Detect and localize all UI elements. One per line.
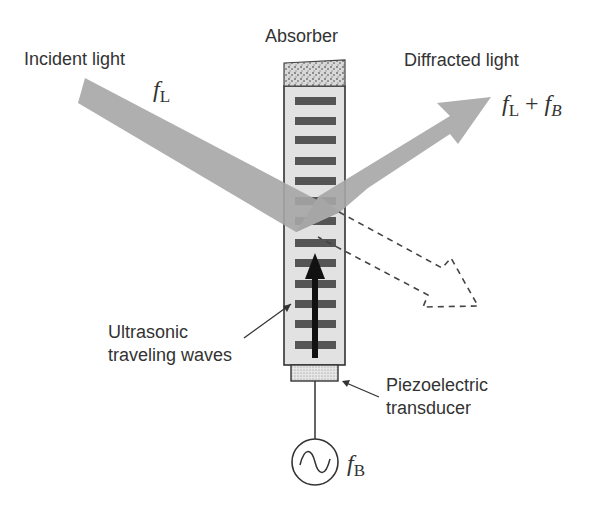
piezo-leader-line	[344, 382, 379, 397]
bragg-cell-diagram	[0, 0, 596, 510]
subscript-L: L	[160, 87, 170, 106]
diffracted-light-label: Diffracted light	[404, 49, 519, 71]
piezoelectric-transducer	[291, 365, 338, 381]
ultrasonic-label-line2: traveling waves	[108, 344, 232, 366]
subscript-B: B	[354, 461, 365, 480]
subscript-L: L	[509, 101, 519, 120]
rf-signal-source	[292, 439, 338, 485]
incident-frequency-label: fL	[153, 76, 170, 110]
incident-light-label: Incident light	[24, 48, 125, 70]
piezo-label-line1: Piezoelectric	[386, 374, 488, 396]
f-symbol: f	[347, 450, 354, 476]
diffracted-frequency-label: fL + fB	[502, 90, 562, 124]
plus-operator: +	[519, 90, 545, 116]
piezo-label-line2: transducer	[386, 397, 471, 419]
f-symbol-1: f	[502, 90, 509, 116]
ultrasonic-label-line1: Ultrasonic	[108, 321, 188, 343]
f-symbol: f	[153, 76, 160, 102]
source-frequency-label: fB	[347, 450, 365, 484]
absorber-label: Absorber	[265, 25, 338, 47]
subscript-B: B	[551, 101, 561, 120]
absorber-block	[284, 60, 345, 86]
